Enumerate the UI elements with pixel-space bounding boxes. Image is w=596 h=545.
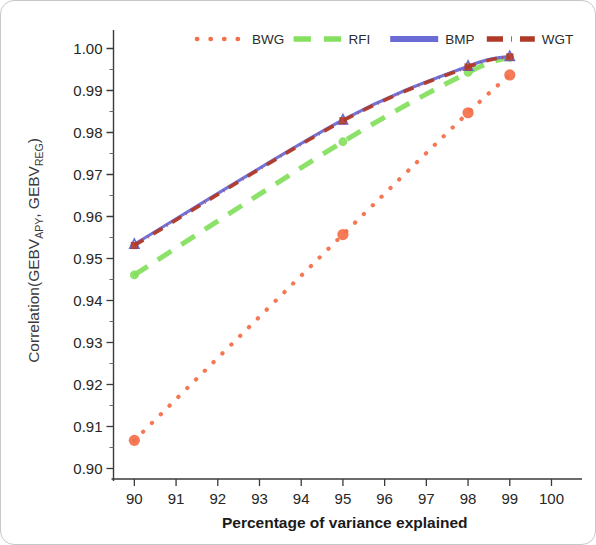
x-tick-label: 90 — [126, 490, 143, 507]
x-tick-label: 94 — [293, 490, 310, 507]
y-tick-label: 0.95 — [73, 250, 102, 267]
y-axis-title: Correlation(GEBVAPY, GEBVREG) — [25, 138, 45, 363]
legend-label-wgt[interactable]: WGT — [542, 32, 574, 47]
data-point-marker — [131, 242, 138, 249]
data-point-marker — [504, 69, 515, 80]
data-point-marker — [462, 107, 473, 118]
x-tick-label: 98 — [460, 490, 477, 507]
data-point-marker — [337, 229, 348, 240]
data-point-marker — [130, 270, 139, 279]
x-tick-label: 100 — [539, 490, 564, 507]
figure-panel: BWGRFIBMPWGT 0.900.910.920.930.940.950.9… — [0, 0, 596, 545]
y-tick-label: 0.99 — [73, 82, 102, 99]
x-axis-title: Percentage of variance explained — [222, 514, 468, 531]
data-point-marker — [506, 53, 513, 60]
chart-legend: BWGRFIBMPWGT — [197, 32, 573, 47]
y-tick-label: 0.97 — [73, 166, 102, 183]
data-point-marker — [129, 435, 140, 446]
y-tick-label: 0.92 — [73, 376, 102, 393]
y-tick-label: 0.91 — [73, 418, 102, 435]
y-tick-label: 0.96 — [73, 208, 102, 225]
y-tick-label: 0.94 — [73, 292, 102, 309]
chart-axes — [107, 30, 583, 486]
y-tick-label: 0.93 — [73, 334, 102, 351]
legend-label-rfi[interactable]: RFI — [349, 32, 371, 47]
y-tick-label: 0.98 — [73, 124, 102, 141]
x-tick-label: 91 — [168, 490, 185, 507]
series-line-bmp — [134, 56, 509, 244]
y-tick-label: 1.00 — [73, 40, 102, 57]
data-point-marker — [339, 137, 348, 146]
series-line-wgt — [134, 57, 509, 246]
chart-axis-labels: 0.900.910.920.930.940.950.960.970.980.99… — [25, 40, 564, 531]
x-tick-label: 95 — [335, 490, 352, 507]
legend-label-bmp[interactable]: BMP — [445, 32, 474, 47]
legend-label-bwg[interactable]: BWG — [252, 32, 284, 47]
series-line-rfi — [134, 57, 509, 275]
x-tick-label: 93 — [251, 490, 268, 507]
data-point-marker — [464, 63, 471, 70]
x-tick-label: 96 — [376, 490, 393, 507]
x-tick-label: 99 — [501, 490, 518, 507]
x-tick-label: 97 — [418, 490, 435, 507]
data-point-marker — [339, 117, 346, 124]
chart-canvas: BWGRFIBMPWGT 0.900.910.920.930.940.950.9… — [1, 1, 596, 545]
x-tick-label: 92 — [209, 490, 226, 507]
chart-series — [129, 51, 516, 446]
y-tick-label: 0.90 — [73, 460, 102, 477]
